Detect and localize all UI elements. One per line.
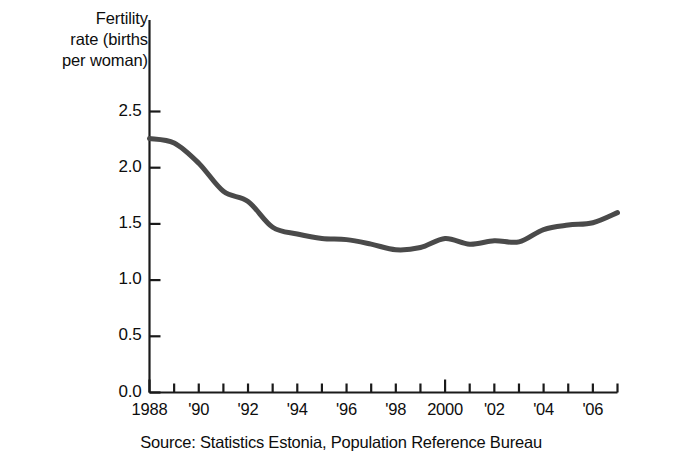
source-caption: Source: Statistics Estonia, Population R… bbox=[0, 433, 682, 452]
y-axis-tick-label: 2.5 bbox=[96, 101, 142, 121]
axes bbox=[150, 20, 618, 393]
y-axis-tick-label: 2.0 bbox=[96, 157, 142, 177]
y-axis-tick-label: 1.5 bbox=[96, 213, 142, 233]
fertility-rate-line-chart: Fertility rate (births per woman) 0.00.5… bbox=[0, 0, 682, 476]
y-axis-tick-label: 1.0 bbox=[96, 269, 142, 289]
axis-ticks bbox=[150, 112, 618, 393]
x-axis-tick-label: '06 bbox=[563, 400, 623, 419]
y-axis-tick-label: 0.0 bbox=[96, 382, 142, 402]
y-axis-tick-label: 0.5 bbox=[96, 325, 142, 345]
fertility-rate-line bbox=[150, 138, 618, 249]
